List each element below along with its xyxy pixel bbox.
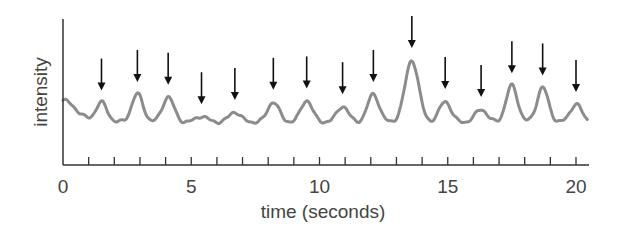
peak-arrow-icon (408, 16, 416, 48)
peak-arrow-icon (269, 58, 277, 90)
peak-arrow-icon (231, 68, 239, 100)
peak-arrow-icon (133, 50, 141, 82)
peak-arrow-icon (198, 72, 206, 104)
intensity-chart: 05101520 time (seconds) intensity (0, 0, 621, 239)
x-tick-label: 15 (437, 176, 458, 197)
x-tick-labels: 05101520 (58, 176, 587, 197)
x-tick-label: 5 (186, 176, 197, 197)
x-tick-label: 10 (309, 176, 330, 197)
peak-arrow-icon (97, 59, 105, 91)
peak-arrow-icon (164, 53, 172, 85)
peak-arrow-icon (441, 57, 449, 89)
peak-arrow-icon (539, 43, 547, 75)
peak-arrow-icon (339, 62, 347, 94)
x-tick-label: 20 (565, 176, 586, 197)
peak-arrow-icon (477, 65, 485, 97)
x-axis-label: time (seconds) (261, 201, 386, 222)
peak-arrow-icon (508, 41, 516, 73)
peak-arrow-icon (572, 60, 580, 92)
x-tick-label: 0 (58, 176, 69, 197)
peak-arrow-icon (369, 50, 377, 82)
y-axis-label: intensity (30, 57, 51, 127)
x-ticks (89, 157, 576, 165)
intensity-trace (63, 61, 587, 124)
peak-arrow-icon (303, 56, 311, 88)
